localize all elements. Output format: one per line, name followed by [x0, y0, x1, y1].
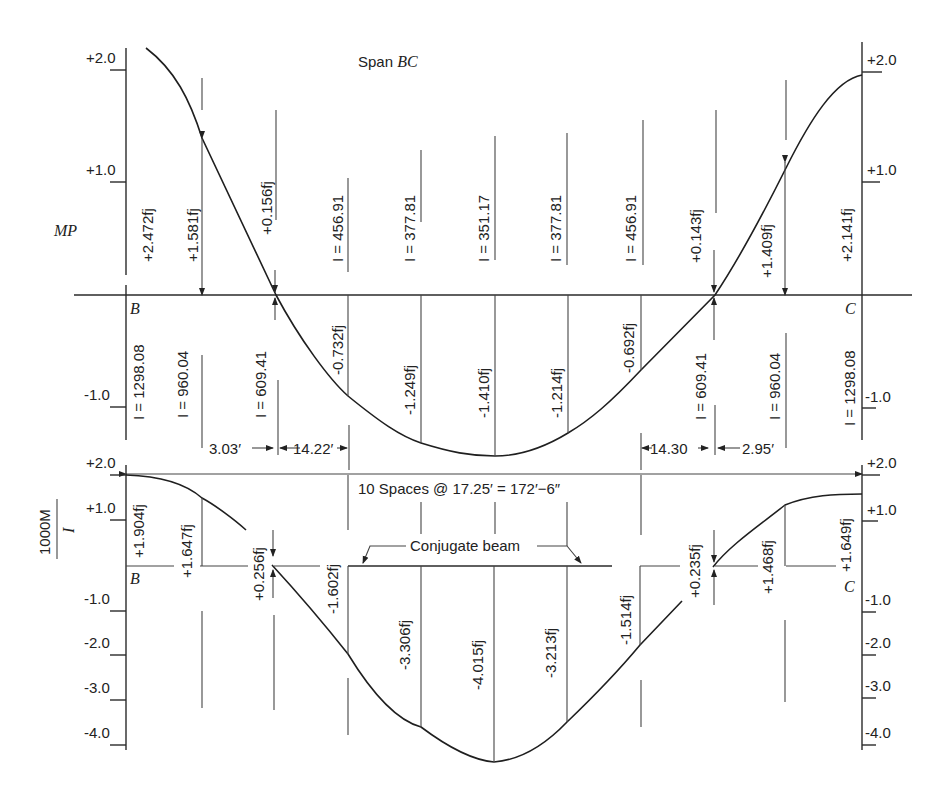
support-b-label: B	[130, 570, 140, 587]
moment-label: +0.156fj	[258, 181, 275, 235]
inertia-label: I = 960.04	[766, 353, 783, 420]
moment-label: -1.214fj	[548, 368, 565, 418]
inertia-label: I = 609.41	[252, 351, 269, 418]
tick-label: +2.0	[867, 51, 897, 68]
tick-label: -3.0	[84, 679, 110, 696]
tick-label: -4.0	[865, 724, 891, 741]
tick-label: +2.0	[86, 454, 116, 471]
conjugate-axis-label: 1000M I	[36, 499, 77, 559]
span-note: 10 Spaces @ 17.25′ = 172′−6″	[358, 480, 561, 497]
moment-label: -0.692fj	[620, 323, 637, 373]
support-b-label: B	[130, 300, 140, 317]
inertia-label: I = 609.41	[692, 353, 709, 420]
conjugate-value-label: +0.256fj	[250, 547, 267, 601]
lower-conjugate-diagram: +2.0 +1.0 -1.0 -2.0 -3.0 -4.0 1000M I +2…	[36, 454, 897, 762]
moment-label: -1.249fj	[401, 365, 418, 415]
dimension-label: 14.22′	[293, 440, 334, 457]
svg-text:I: I	[60, 527, 77, 534]
support-c-label: C	[844, 578, 855, 595]
conjugate-value-label: -1.514fj	[617, 595, 634, 645]
tick-label: -1.0	[84, 590, 110, 607]
tick-label: -3.0	[865, 677, 891, 694]
conjugate-value-label: +0.235fj	[686, 544, 703, 598]
inertia-label: I = 456.91	[622, 195, 639, 262]
conjugate-value-label: +1.468fj	[759, 540, 776, 594]
moment-label: +2.141fj	[838, 208, 855, 262]
dimension-label: 14.30	[650, 440, 688, 457]
conjugate-value-label: -4.015fj	[469, 640, 486, 690]
inertia-label: I = 1298.08	[130, 345, 147, 420]
moment-label: +1.581fj	[184, 208, 201, 262]
tick-label: -2.0	[865, 634, 891, 651]
support-c-label: C	[845, 300, 856, 317]
inertia-label: I = 1298.08	[841, 351, 858, 426]
inertia-label: I = 456.91	[329, 195, 346, 262]
tick-label: +1.0	[86, 499, 116, 516]
inertia-label: I = 377.81	[401, 195, 418, 262]
moment-label: -0.732fj	[329, 325, 346, 375]
tick-label: +2.0	[867, 454, 897, 471]
beam-diagram: Span BC +2.0 +1.0 -1.0 MP +2.0 +1.0 -1.0…	[0, 0, 944, 788]
tick-label: -1.0	[865, 591, 891, 608]
dimension-label: 3.03′	[209, 440, 241, 457]
dimension-label: 2.95′	[742, 440, 774, 457]
diagram-title: Span BC	[358, 53, 418, 70]
mp-axis-label: MP	[53, 222, 77, 239]
tick-label: -1.0	[865, 388, 891, 405]
conjugate-value-label: +1.904fj	[130, 504, 147, 558]
conjugate-value-label: -3.306fj	[396, 620, 413, 670]
conjugate-value-label: -3.213fj	[542, 628, 559, 678]
tick-label: +2.0	[86, 49, 116, 66]
tick-label: +1.0	[86, 161, 116, 178]
upper-mp-diagram: +2.0 +1.0 -1.0 MP +2.0 +1.0 -1.0 B C	[53, 42, 912, 470]
moment-label: +2.472fj	[139, 208, 156, 262]
moment-label: +1.409fj	[758, 224, 775, 278]
inertia-label: I = 960.04	[174, 351, 191, 418]
inertia-label: I = 351.17	[475, 195, 492, 262]
tick-label: +1.0	[867, 161, 897, 178]
tick-label: -1.0	[84, 386, 110, 403]
conjugate-value-label: -1.602fj	[324, 564, 341, 614]
tick-label: -2.0	[84, 634, 110, 651]
tick-label: -4.0	[84, 724, 110, 741]
moment-label: -1.410fj	[475, 368, 492, 418]
moment-label: +0.143fj	[687, 209, 704, 263]
inertia-label: I = 377.81	[547, 195, 564, 262]
tick-label: +1.0	[867, 501, 897, 518]
svg-text:1000M: 1000M	[36, 509, 53, 555]
conjugate-value-label: +1.649fj	[837, 518, 854, 572]
conjugate-value-label: +1.647fj	[178, 524, 195, 578]
conjugate-beam-label: Conjugate beam	[410, 537, 520, 554]
